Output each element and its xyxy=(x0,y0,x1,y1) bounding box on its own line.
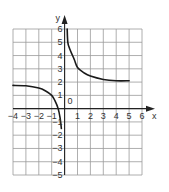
x-tick-label: 1 xyxy=(75,111,80,121)
y-tick-label: −5 xyxy=(52,170,62,180)
x-axis-label: x xyxy=(152,111,157,121)
function-graph: −4−3−2−1123456654321−1−2−3−4−50xy xyxy=(0,0,169,192)
y-tick-label: 3 xyxy=(58,64,63,74)
y-tick-label: −1 xyxy=(52,117,62,127)
curve-right-branch xyxy=(67,29,129,81)
y-tick-label: 5 xyxy=(58,37,63,47)
y-tick-label: −4 xyxy=(52,157,62,167)
tick-labels: −4−3−2−1123456654321−1−2−3−4−50xy xyxy=(8,13,157,180)
y-tick-label: 6 xyxy=(58,24,63,34)
x-tick-label: 3 xyxy=(101,111,106,121)
y-tick-label: −3 xyxy=(52,143,62,153)
y-axis-arrow-icon xyxy=(62,15,68,24)
y-axis-label: y xyxy=(56,13,61,23)
x-tick-label: 5 xyxy=(127,111,132,121)
x-tick-label: 6 xyxy=(139,111,144,121)
grid xyxy=(13,29,142,175)
origin-label: 0 xyxy=(68,96,73,106)
y-tick-label: 1 xyxy=(58,90,63,100)
x-tick-label: −4 xyxy=(8,111,18,121)
x-tick-label: 4 xyxy=(114,111,119,121)
y-tick-label: 2 xyxy=(58,77,63,87)
y-tick-label: 4 xyxy=(58,51,63,61)
x-tick-label: −3 xyxy=(21,111,31,121)
x-tick-label: 2 xyxy=(88,111,93,121)
x-tick-label: −2 xyxy=(34,111,44,121)
y-tick-label: −2 xyxy=(52,130,62,140)
